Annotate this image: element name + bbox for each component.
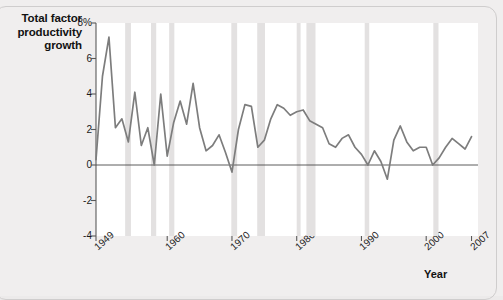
recession-band bbox=[257, 23, 265, 236]
recession-band bbox=[306, 23, 315, 236]
recession-band bbox=[151, 23, 156, 236]
recession-band bbox=[297, 23, 301, 236]
recession-band bbox=[433, 23, 438, 236]
recession-band bbox=[365, 23, 370, 236]
recession-band bbox=[231, 23, 237, 236]
